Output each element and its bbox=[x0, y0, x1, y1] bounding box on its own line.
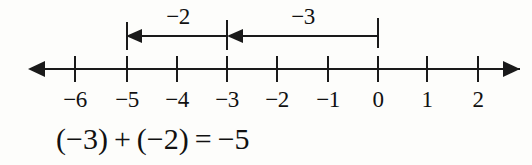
tick-label-zero: 0 bbox=[355, 86, 401, 114]
jump-label-minus-3: −3 bbox=[263, 4, 343, 30]
tick-label-minus-3: −3 bbox=[204, 86, 250, 114]
jump-arrowhead-minus-3 bbox=[227, 29, 243, 43]
jump-shaft-minus-3 bbox=[241, 35, 378, 37]
tick-mark bbox=[426, 56, 428, 82]
tick-label-minus-1: −1 bbox=[305, 86, 351, 114]
jump-end-bar-zero bbox=[377, 18, 379, 48]
left-arrow-icon bbox=[28, 61, 45, 77]
tick-label-minus-4: −4 bbox=[154, 86, 200, 114]
tick-mark bbox=[377, 56, 379, 82]
tick-mark bbox=[276, 56, 278, 82]
tick-label-minus-5: −5 bbox=[104, 86, 150, 114]
tick-label-minus-2: −2 bbox=[254, 86, 300, 114]
equation-text: (−3) + (−2) = −5 bbox=[56, 120, 250, 158]
number-line-figure: −6 −5 −4 −3 −2 −1 0 1 2 −2 −3 (−3) + (−2… bbox=[0, 0, 532, 165]
jump-label-minus-2: −2 bbox=[138, 4, 218, 30]
tick-mark bbox=[176, 56, 178, 82]
right-arrow-icon bbox=[503, 61, 520, 77]
tick-mark bbox=[126, 56, 128, 82]
tick-label-minus-6: −6 bbox=[52, 86, 98, 114]
jump-shaft-minus-2 bbox=[140, 35, 227, 37]
tick-mark bbox=[226, 56, 228, 82]
tick-label-two: 2 bbox=[455, 86, 501, 114]
tick-mark bbox=[477, 56, 479, 82]
jump-arrowhead-minus-2 bbox=[126, 29, 142, 43]
tick-label-one: 1 bbox=[404, 86, 450, 114]
tick-mark bbox=[74, 56, 76, 82]
tick-mark bbox=[327, 56, 329, 82]
